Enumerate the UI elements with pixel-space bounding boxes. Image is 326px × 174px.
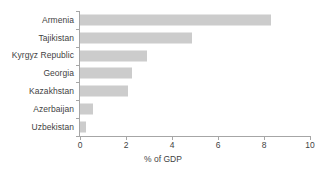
x-axis-tick-label: 10 xyxy=(305,141,314,150)
x-axis-tick-label: 8 xyxy=(262,141,267,150)
y-axis-tick xyxy=(76,136,79,137)
bar-row xyxy=(80,47,310,65)
x-axis-title: % of GDP xyxy=(0,155,326,164)
y-axis-line xyxy=(79,11,80,136)
bar-row xyxy=(80,65,310,83)
x-axis-tick-label: 4 xyxy=(170,141,175,150)
y-axis-tick xyxy=(76,100,79,101)
x-axis-tick-label: 2 xyxy=(124,141,129,150)
bar-row xyxy=(80,82,310,100)
y-axis-label-5: Azerbaijan xyxy=(0,100,74,118)
bar-row xyxy=(80,118,310,136)
y-axis-label-6: Uzbekistan xyxy=(0,118,74,136)
bar-kyrgyz-republic xyxy=(80,50,147,61)
y-axis-tick xyxy=(76,65,79,66)
y-axis-label-2: Kyrgyz Republic xyxy=(0,47,74,65)
plot-area xyxy=(80,11,310,136)
x-axis-tick-label: 0 xyxy=(78,141,83,150)
y-axis-category-labels: Armenia Tajikistan Kyrgyz Republic Georg… xyxy=(0,11,74,136)
bar-row xyxy=(80,100,310,118)
bar-tajikistan xyxy=(80,32,192,43)
bar-uzbekistan xyxy=(80,122,86,133)
y-axis-label-0: Armenia xyxy=(0,11,74,29)
x-axis-tick-label: 6 xyxy=(216,141,221,150)
y-axis-tick xyxy=(76,47,79,48)
bar-row xyxy=(80,29,310,47)
x-axis-line xyxy=(79,136,311,137)
bar-armenia xyxy=(80,14,271,25)
y-axis-label-3: Georgia xyxy=(0,65,74,83)
y-axis-label-4: Kazakhstan xyxy=(0,82,74,100)
y-axis-tick xyxy=(76,29,79,30)
bar-row xyxy=(80,11,310,29)
bar-kazakhstan xyxy=(80,86,128,97)
bar-georgia xyxy=(80,68,132,79)
bar-azerbaijan xyxy=(80,104,93,115)
y-axis-label-1: Tajikistan xyxy=(0,29,74,47)
y-axis-tick xyxy=(76,118,79,119)
y-axis-tick xyxy=(76,11,79,12)
bar-chart: Armenia Tajikistan Kyrgyz Republic Georg… xyxy=(0,0,326,174)
y-axis-tick xyxy=(76,82,79,83)
